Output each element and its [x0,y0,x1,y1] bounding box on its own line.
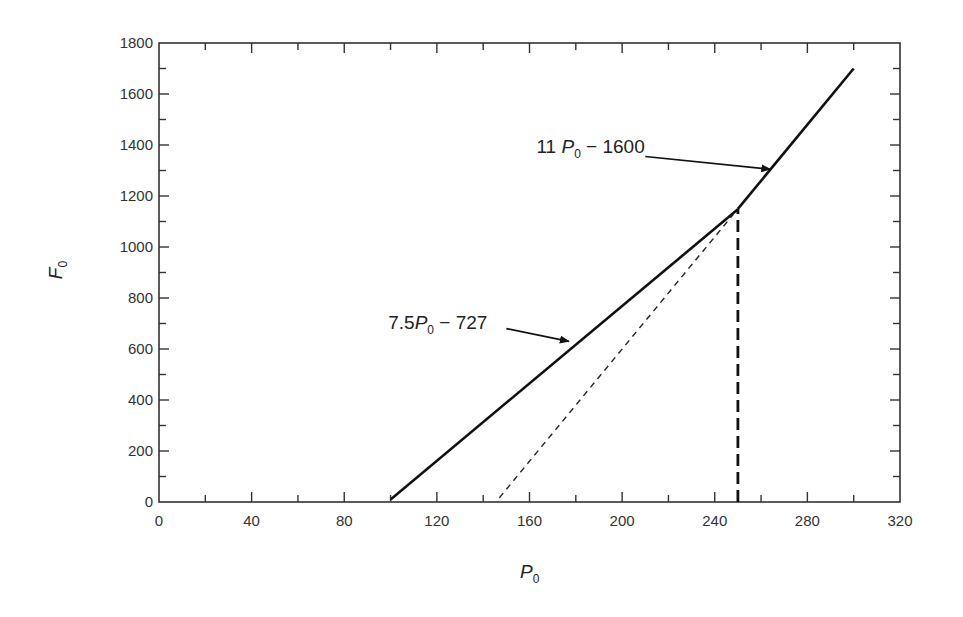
y-tick-label: 1200 [120,187,153,204]
annotation-arrow [645,156,770,169]
plot-border [159,43,900,502]
x-tick-label: 240 [702,512,727,529]
x-tick-label: 160 [517,512,542,529]
y-tick-label: 1000 [120,238,153,255]
x-tick-label: 0 [155,512,163,529]
series-line-2 [499,214,733,497]
annotation-upper: 11 P0 − 1600 [536,136,770,170]
chart: 0408012016020024028032002004006008001000… [0,0,963,617]
annotation-coef: 11 [536,136,561,157]
x-axis-label: P0 [520,561,540,586]
annotation-arrow [506,329,569,342]
series [391,69,854,503]
x-tick-label: 40 [243,512,260,529]
series-line-1 [738,69,854,209]
y-tick-label: 800 [128,289,153,306]
x-axis-label-sub: 0 [533,572,540,586]
annotation-coef: 7.5 [388,312,414,333]
x-tick-label: 320 [887,512,912,529]
x-tick-label: 200 [610,512,635,529]
x-tick-label: 120 [424,512,449,529]
series-line-0 [391,209,738,499]
y-tick-label: 0 [145,493,153,510]
x-tick-label: 280 [795,512,820,529]
y-tick-label: 1800 [120,34,153,51]
y-tick-label: 1400 [120,136,153,153]
annotation-rest: − 727 [434,312,487,333]
y-tick-label: 400 [128,391,153,408]
y-axis-label: F0 [45,261,70,280]
annotation-rest: − 1600 [581,136,645,157]
y-tick-label: 600 [128,340,153,357]
annotation-var: P [561,136,574,157]
annotation-var: P [415,312,428,333]
y-tick-label: 200 [128,442,153,459]
x-tick-label: 80 [336,512,353,529]
axis-ticks [159,43,900,502]
annotation-label: 11 P0 − 1600 [536,136,644,161]
y-axis-label-sub: 0 [56,261,70,268]
tick-labels: 0408012016020024028032002004006008001000… [120,34,913,529]
plot-frame [159,43,900,502]
y-tick-label: 1600 [120,85,153,102]
x-axis-label-main: P [520,561,533,582]
annotation-label: 7.5P0 − 727 [388,312,487,337]
annotation-lower: 7.5P0 − 727 [388,312,569,342]
